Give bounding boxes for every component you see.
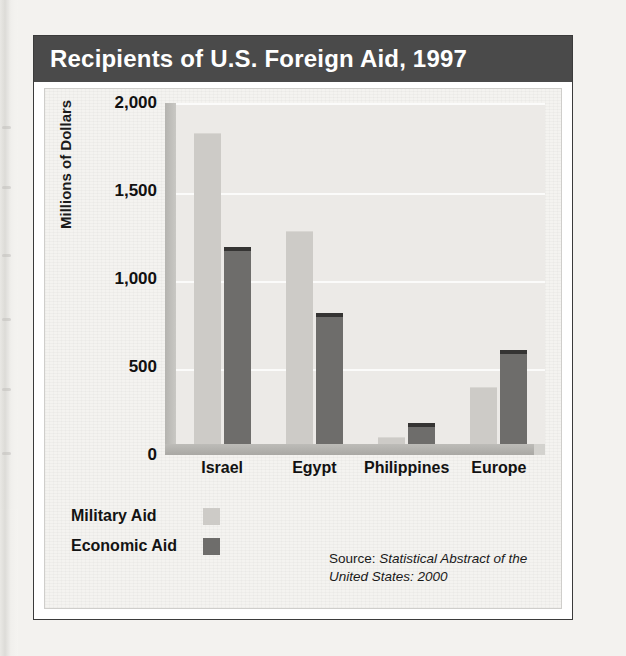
legend-swatch-economic-icon [203,538,220,555]
source-note: Source: Statistical Abstract of the Unit… [329,550,539,586]
legend-label-economic: Economic Aid [71,537,203,555]
bar-chart: Millions of Dollars 2,000 1,500 1,000 50… [45,89,561,499]
bar-europe-military [470,387,497,444]
plot-floor [165,444,545,455]
bar-europe-economic [500,350,527,444]
plot-box [165,103,545,455]
page-title: Recipients of U.S. Foreign Aid, 1997 [50,45,467,73]
legend-label-military: Military Aid [71,507,203,525]
bar-philippines-economic [408,423,435,444]
y-tick-label: 500 [129,357,157,377]
legend-swatch-military-icon [203,508,220,525]
bar-group-philippines [361,105,453,444]
y-tick-label: 2,000 [114,93,157,113]
plot-area [176,103,545,444]
scan-edge-artifact [0,0,18,656]
bar-group-egypt [268,105,360,444]
bar-egypt-military [286,231,313,444]
x-label-israel: Israel [176,459,268,491]
x-label-egypt: Egypt [268,459,360,491]
bar-groups [176,105,545,444]
plot-left-wall [165,103,176,446]
y-tick-label: 1,500 [114,181,157,201]
figure-panel: Recipients of U.S. Foreign Aid, 1997 Mil… [33,35,573,620]
title-banner: Recipients of U.S. Foreign Aid, 1997 [34,36,572,82]
legend-item-military: Military Aid [71,507,220,525]
chart-panel: Millions of Dollars 2,000 1,500 1,000 50… [44,88,562,609]
y-axis-title: Millions of Dollars [57,100,74,229]
x-label-philippines: Philippines [361,459,453,491]
y-tick-label: 1,000 [114,269,157,289]
bar-egypt-economic [316,313,343,444]
bar-group-israel [176,105,268,444]
x-axis-labels: Israel Egypt Philippines Europe [176,459,545,491]
y-tick-label: 0 [148,445,157,465]
bar-philippines-military [378,437,405,444]
chart-legend: Military Aid Economic Aid [71,507,220,567]
bar-israel-military [194,133,221,444]
bar-group-europe [453,105,545,444]
bar-israel-economic [224,247,251,444]
y-axis-ticks: 2,000 1,500 1,000 500 0 [73,89,161,499]
source-prefix: Source: [329,551,379,566]
x-label-europe: Europe [453,459,545,491]
legend-item-economic: Economic Aid [71,537,220,555]
